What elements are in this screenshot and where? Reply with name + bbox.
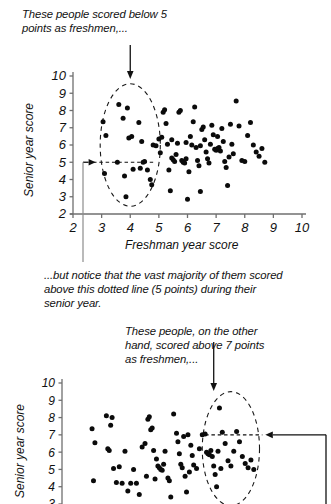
middle-note: ...but notice that the vast majority of … bbox=[44, 268, 330, 311]
panel1-y-axis-label: Senior year score bbox=[22, 103, 36, 197]
scatter-plot-freshman-vs-senior-1[interactable]: 23456789102345678910 bbox=[0, 0, 331, 260]
svg-text:6: 6 bbox=[48, 446, 55, 460]
svg-text:6: 6 bbox=[59, 137, 67, 152]
svg-text:5: 5 bbox=[59, 155, 67, 170]
svg-text:8: 8 bbox=[48, 411, 55, 425]
svg-text:3: 3 bbox=[59, 189, 67, 204]
panel2-top-annotation: These people, on the other hand, scored … bbox=[125, 324, 325, 367]
svg-text:2: 2 bbox=[58, 206, 67, 221]
svg-text:5: 5 bbox=[48, 463, 55, 477]
svg-text:3: 3 bbox=[48, 497, 55, 504]
panel1-x-axis-label: Freshman year score bbox=[125, 238, 238, 252]
chart-panel-2: 345678910 Senior year score bbox=[0, 366, 331, 504]
scatter-plot-freshman-vs-senior-2[interactable]: 345678910 bbox=[0, 366, 331, 504]
svg-text:10: 10 bbox=[52, 68, 67, 83]
svg-text:4: 4 bbox=[127, 220, 134, 235]
svg-text:3: 3 bbox=[98, 220, 106, 235]
svg-text:7: 7 bbox=[213, 220, 221, 235]
svg-text:5: 5 bbox=[155, 220, 163, 235]
svg-text:8: 8 bbox=[241, 220, 249, 235]
panel2-y-axis-label: Senior year score bbox=[13, 404, 27, 498]
svg-text:10: 10 bbox=[42, 376, 56, 390]
svg-text:9: 9 bbox=[59, 86, 66, 101]
chart-panel-1: 23456789102345678910 Senior year score F… bbox=[0, 0, 331, 260]
svg-text:4: 4 bbox=[59, 172, 66, 187]
svg-text:4: 4 bbox=[48, 480, 55, 494]
svg-text:9: 9 bbox=[48, 394, 55, 408]
svg-text:7: 7 bbox=[48, 428, 56, 442]
svg-text:2: 2 bbox=[68, 220, 77, 235]
figure-page: These people scored below 5 points as fr… bbox=[0, 0, 331, 504]
svg-text:10: 10 bbox=[295, 220, 310, 235]
svg-text:8: 8 bbox=[59, 103, 67, 118]
svg-text:9: 9 bbox=[270, 220, 277, 235]
svg-text:7: 7 bbox=[59, 120, 67, 135]
svg-text:6: 6 bbox=[184, 220, 192, 235]
